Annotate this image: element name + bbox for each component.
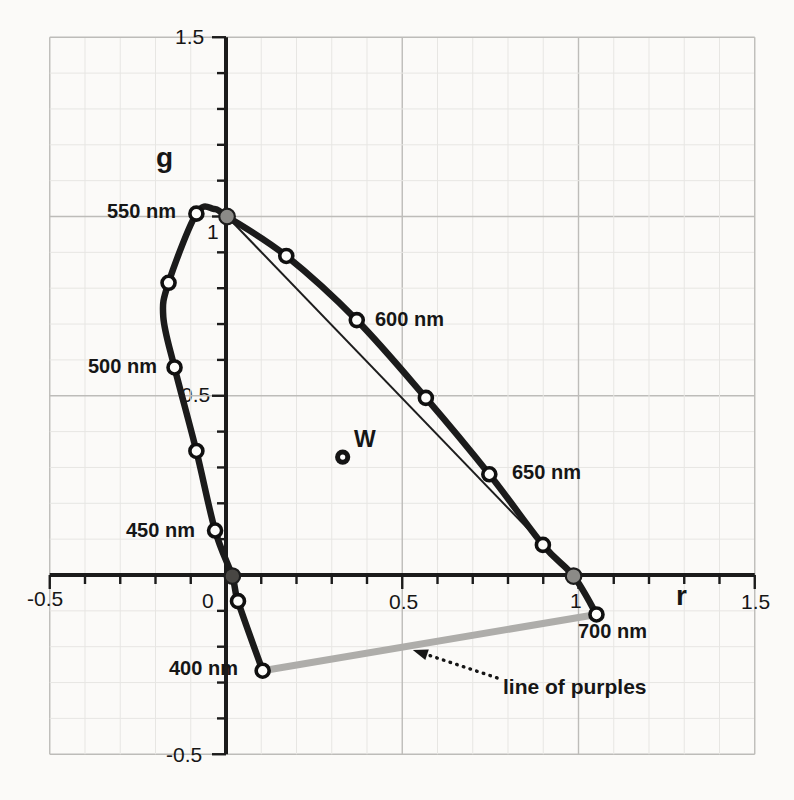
label-450nm: 450 nm [126,520,195,540]
marker-open [280,249,293,262]
marker-dark [225,568,241,584]
label-700nm: 700 nm [578,621,647,641]
marker-gray [219,209,235,225]
label-600nm: 600 nm [375,309,444,329]
marker-450nm [209,524,222,537]
marker-500nm [168,361,181,374]
marker-gray [566,568,582,584]
x-tick-label-0-5: 0.5 [389,591,418,612]
label-500nm: 500 nm [88,356,157,376]
marker-open [231,595,244,608]
chromaticity-plot [0,0,794,800]
origin-tick-label: 0 [202,590,214,611]
x-axis-label-r: r [676,582,687,610]
marker-600nm [350,314,363,327]
label-550nm: 550 nm [107,201,176,221]
marker-700nm [590,608,603,621]
x-tick-label-1: 1 [570,590,582,611]
marker-open [419,391,432,404]
line-of-purples [263,614,597,670]
label-650nm: 650 nm [512,462,581,482]
marker-400nm [256,664,269,677]
y-tick-label-1-5: 1.5 [175,26,204,47]
line-of-purples-label: line of purples [503,676,647,697]
y-axis-label-g: g [156,144,173,172]
y-tick-label-1: 1 [207,221,219,242]
label-400nm: 400 nm [169,658,238,678]
marker-open [162,276,175,289]
y-tick-label-neg-0-5: -0.5 [166,744,202,765]
marker-open [190,444,203,457]
line-of-purples-arrow [413,649,497,677]
x-tick-label-1-5: 1.5 [741,591,770,612]
marker-550nm [190,207,203,220]
rg-chromaticity-figure: 1.5 1 0.5 -0.5 0 -0.5 0.5 1 1.5 g r 550 … [0,0,794,800]
marker-open [536,538,549,551]
wavelength-markers [162,207,603,677]
white-point-label: W [354,428,376,451]
marker-650nm [483,468,496,481]
x-tick-label-neg-0-5: -0.5 [27,588,63,609]
white-point-marker [335,449,350,464]
